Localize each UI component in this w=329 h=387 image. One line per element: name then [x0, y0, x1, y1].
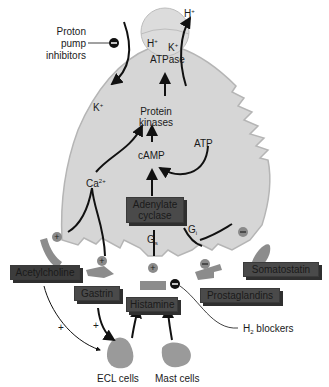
pump-k-label: K+ [168, 40, 178, 53]
ppi-label-line1: Proton [22, 26, 86, 38]
k-plus-in-label: K+ [93, 100, 103, 113]
acetylcholine-receptor [40, 238, 62, 268]
histamine-plus-badge: + [148, 263, 158, 273]
gastrin-receptor [86, 266, 114, 278]
atp-label: ATP [194, 138, 213, 149]
ach-plus-badge: + [52, 232, 62, 242]
ecl-cells-label: ECL cells [97, 373, 139, 384]
histamine-box: Histamine [126, 297, 178, 312]
prostaglandins-box: Prostaglandins [200, 288, 280, 303]
gastrin-plus-badge: + [97, 256, 107, 266]
prostaglandin-minus-badge [200, 259, 210, 269]
calcium-label: Ca2+ [86, 176, 106, 189]
ecl-cell [107, 338, 133, 369]
gastrin-box: Gastrin [74, 286, 120, 301]
gs-label: Gs [147, 234, 158, 249]
svg-text:+: + [150, 263, 155, 273]
protein-kinases-label: Protein kinases [136, 106, 176, 128]
h2-blockers-label: H2 blockers [243, 323, 294, 338]
svg-text:+: + [99, 256, 104, 266]
mast-cell [162, 343, 191, 368]
acetylcholine-box: Acetylcholine [10, 265, 80, 280]
adenylate-cyclase-line1: Adenylate [130, 199, 180, 210]
somatostatin-box: Somatostatin [243, 262, 319, 277]
gastrin-plus-label: + [93, 320, 99, 331]
camp-label: cAMP [138, 150, 165, 161]
svg-text:+: + [54, 232, 59, 242]
histamine-receptor [140, 281, 166, 290]
ppi-label: Proton pump inhibitors [22, 26, 86, 62]
ach-plus-label: + [58, 322, 64, 333]
atpase-label: ATPase [150, 54, 185, 65]
pump-h-label: H+ [147, 36, 158, 49]
gastrin-to-ecl-arrow [98, 308, 114, 340]
adenylate-cyclase-line2: cyclase [130, 210, 180, 221]
h2-blocker-minus-badge [170, 279, 180, 289]
gi-label: Gi [188, 224, 197, 239]
mast-to-histamine-arrow [168, 308, 172, 340]
ecl-to-histamine-arrow [132, 308, 138, 338]
protein-kinases-line2: kinases [136, 117, 176, 128]
somatostatin-minus-badge [238, 227, 248, 237]
ppi-label-line2: pump [22, 38, 86, 50]
mast-cells-label: Mast cells [155, 373, 199, 384]
h-plus-out-label: H+ [184, 6, 195, 19]
adenylate-cyclase-box: Adenylate cyclase [126, 197, 184, 223]
protein-kinases-line1: Protein [136, 106, 176, 117]
ppi-label-line3: inhibitors [22, 50, 86, 62]
